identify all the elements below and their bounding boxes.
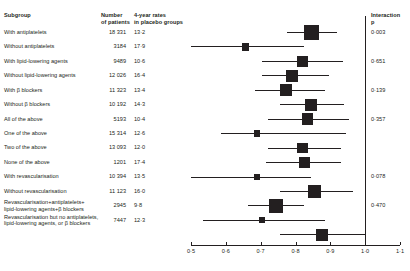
effect-estimate-marker	[259, 217, 265, 223]
null-effect-line	[365, 16, 366, 243]
effect-estimate-marker	[305, 99, 317, 111]
effect-estimate-marker	[302, 113, 314, 125]
x-axis-tick-label: 1·0	[355, 248, 375, 254]
x-axis-tick	[191, 242, 192, 245]
forest-plot-canvas	[0, 0, 410, 271]
x-axis-tick	[226, 242, 227, 245]
x-axis-tick-label: 1·1	[390, 248, 410, 254]
x-axis-tick-label: 0·8	[286, 248, 306, 254]
effect-estimate-marker	[308, 185, 321, 198]
x-axis-line	[191, 245, 400, 246]
effect-estimate-marker	[297, 56, 308, 67]
effect-estimate-marker	[280, 84, 292, 96]
effect-estimate-marker	[254, 130, 260, 136]
x-axis-tick	[365, 242, 366, 245]
effect-estimate-marker	[254, 174, 260, 180]
confidence-interval-line	[221, 133, 346, 134]
x-axis-tick	[261, 242, 262, 245]
x-axis-tick-label: 0·7	[251, 248, 271, 254]
confidence-interval-line	[191, 177, 311, 178]
effect-estimate-marker	[304, 25, 319, 40]
x-axis-tick	[296, 242, 297, 245]
x-axis-tick	[330, 242, 331, 245]
effect-estimate-marker	[297, 143, 308, 154]
effect-estimate-marker	[242, 43, 250, 51]
x-axis-tick-label: 0·6	[216, 248, 236, 254]
effect-estimate-marker	[269, 199, 283, 213]
x-axis-tick-label: 0·9	[320, 248, 340, 254]
effect-estimate-marker	[286, 70, 298, 82]
x-axis-tick-label: 0·5	[181, 248, 201, 254]
forest-plot-figure: Subgroup Number of patients 4-year rates…	[0, 0, 410, 271]
effect-estimate-marker	[316, 229, 328, 241]
x-axis-tick	[400, 242, 401, 245]
effect-estimate-marker	[299, 157, 310, 168]
